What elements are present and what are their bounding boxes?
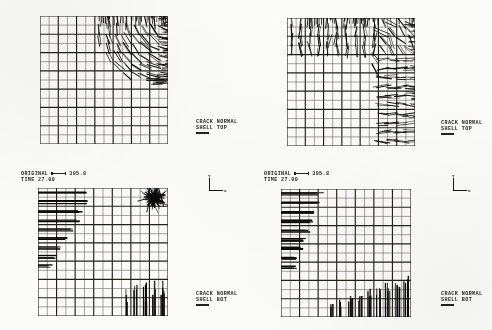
plot-bottom-right <box>281 189 411 317</box>
plot-top-left <box>40 16 168 144</box>
caption-top-right: CRACK NORMAL SHELL TOP <box>441 120 482 135</box>
axis-x-line <box>209 190 223 191</box>
caption-underline <box>196 132 209 133</box>
axis-x-label: X <box>468 188 471 193</box>
axis-x-line <box>453 190 467 191</box>
scale-bar-icon <box>51 173 66 174</box>
plot-bottom-left <box>38 188 168 316</box>
caption-line-2: SHELL BOT <box>441 297 482 303</box>
caption-underline <box>196 304 209 305</box>
caption-top-left: CRACK NORMAL SHELL TOP <box>196 119 237 134</box>
plot-top-right <box>287 18 415 146</box>
time-label: TIME 27.00 <box>264 177 329 183</box>
scale-value: 395.8 <box>312 171 329 177</box>
time-label: TIME 27.00 <box>21 177 86 183</box>
triad-bottom-left: Y X <box>208 174 234 196</box>
axis-x-label: X <box>224 188 227 193</box>
caption-line-2: SHELL TOP <box>441 126 482 132</box>
mesh-svg-top-left <box>40 16 168 144</box>
header-bottom-left: ORIGINAL 395.8 TIME 27.00 <box>21 171 86 183</box>
caption-bottom-left: CRACK NORMAL SHELL BOT <box>196 291 237 306</box>
scale-bar-icon <box>294 173 309 174</box>
header-bottom-right: ORIGINAL 395.8 TIME 27.00 <box>264 171 329 183</box>
axis-y-label: Y <box>452 173 455 178</box>
caption-line-2: SHELL BOT <box>196 297 237 303</box>
caption-line-2: SHELL TOP <box>196 125 237 131</box>
mesh-svg-bottom-left <box>38 188 168 316</box>
triad-bottom-right: Y X <box>452 174 478 196</box>
mesh-svg-bottom-right <box>281 189 411 317</box>
caption-underline <box>441 304 454 305</box>
mesh-svg-top-right <box>287 18 415 146</box>
caption-bottom-right: CRACK NORMAL SHELL BOT <box>441 291 482 306</box>
figure-page: CRACK NORMAL SHELL TOP CRACK NORMAL SHEL… <box>0 0 492 330</box>
caption-underline <box>441 133 454 134</box>
scale-value: 395.8 <box>69 171 86 177</box>
axis-y-label: Y <box>208 173 211 178</box>
